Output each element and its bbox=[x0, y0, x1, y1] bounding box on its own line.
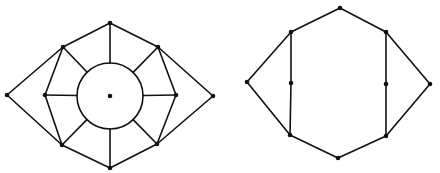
vertex-fl bbox=[245, 80, 250, 85]
edge bbox=[386, 32, 430, 84]
vertex-mr bbox=[174, 93, 179, 98]
vertex-fl bbox=[5, 93, 10, 98]
vertex-ll bbox=[60, 143, 65, 148]
edge bbox=[157, 96, 213, 144]
edge bbox=[290, 83, 291, 135]
edge bbox=[340, 8, 386, 32]
vertex-fr bbox=[211, 94, 216, 99]
vertex-mr bbox=[384, 82, 389, 87]
vertex-lr bbox=[155, 142, 160, 147]
vertex-bot bbox=[336, 156, 341, 161]
vertex-top bbox=[108, 21, 113, 26]
vertex-bot bbox=[108, 166, 113, 171]
edge bbox=[247, 82, 290, 135]
vertex-lr bbox=[384, 134, 389, 139]
vertex-ul bbox=[61, 45, 66, 50]
spoke-edge bbox=[62, 120, 87, 145]
spoke-edge bbox=[143, 95, 176, 96]
vertex-center bbox=[108, 94, 113, 99]
edge bbox=[386, 84, 430, 136]
edge bbox=[62, 145, 110, 168]
vertex-ml bbox=[43, 93, 48, 98]
vertex-ur bbox=[384, 30, 389, 35]
edge bbox=[110, 23, 158, 47]
vertex-ur bbox=[156, 45, 161, 50]
right-graph bbox=[245, 6, 433, 161]
edge bbox=[291, 8, 340, 32]
vertex-top bbox=[338, 6, 343, 11]
spoke-edge bbox=[133, 120, 157, 144]
spoke-edge bbox=[133, 47, 158, 72]
vertex-ll bbox=[288, 133, 293, 138]
vertex-ml bbox=[289, 81, 294, 86]
vertex-ul bbox=[289, 30, 294, 35]
vertex-fr bbox=[428, 82, 433, 87]
graph-figure bbox=[0, 0, 440, 173]
edge bbox=[158, 47, 213, 96]
edge bbox=[110, 144, 157, 168]
edge bbox=[290, 135, 338, 158]
left-graph bbox=[5, 21, 216, 171]
edge bbox=[338, 136, 386, 158]
edge bbox=[63, 23, 110, 47]
spoke-edge bbox=[63, 47, 87, 72]
edge bbox=[247, 32, 291, 82]
